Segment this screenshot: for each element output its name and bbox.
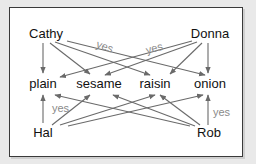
node-rob: Rob bbox=[197, 125, 221, 140]
node-plain: plain bbox=[29, 76, 56, 91]
edge-label-rob-onion: yes bbox=[213, 106, 231, 118]
node-onion: onion bbox=[194, 76, 226, 91]
node-donna: Donna bbox=[191, 26, 230, 41]
edge-donna-raisin bbox=[170, 43, 202, 74]
edges-cathy bbox=[43, 41, 205, 75]
edges-donna bbox=[60, 41, 208, 77]
edge-label-donna-plain: yes bbox=[144, 40, 164, 56]
bipartite-diagram: yes yes yes yes Cathy Donna plain sesame… bbox=[0, 0, 256, 164]
edge-label-hal-plain: yes bbox=[52, 102, 70, 114]
edge-rob-plain bbox=[55, 95, 190, 126]
node-sesame: sesame bbox=[76, 76, 122, 91]
node-cathy: Cathy bbox=[29, 26, 63, 41]
node-raisin: raisin bbox=[139, 76, 170, 91]
node-hal: Hal bbox=[33, 125, 53, 140]
